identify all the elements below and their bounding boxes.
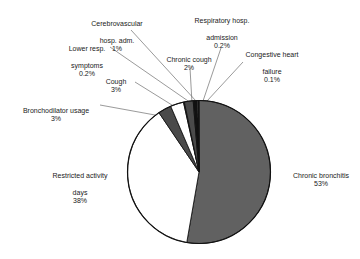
pie-slices	[127, 100, 270, 243]
label-bronchodilator-pct: 3%	[10, 115, 102, 124]
label-chronic-bronchitis: Chronic bronchitis 53%	[285, 163, 357, 197]
label-congestive-line2: failure	[262, 68, 281, 75]
label-congestive-pct: 0.1%	[224, 76, 320, 85]
label-chronic-cough: Chronic cough 2%	[143, 47, 235, 81]
label-chronic-bronchitis-pct: 53%	[285, 180, 357, 189]
label-congestive: Congestive heart failure 0.1%	[224, 42, 320, 94]
label-cough-line1: Cough	[106, 78, 127, 85]
label-restricted-line2: days	[73, 189, 88, 196]
label-lower-resp-line2: symptoms	[71, 62, 103, 69]
label-restricted: Restricted activity days 38%	[38, 163, 122, 215]
label-chronic-cough-pct: 2%	[143, 64, 235, 73]
label-respiratory-hosp-line1: Respiratory hosp.	[195, 17, 250, 24]
label-lower-resp-line1: Lower resp.	[69, 45, 106, 52]
label-restricted-pct: 38%	[38, 197, 122, 206]
label-chronic-bronchitis-line1: Chronic bronchitis	[293, 172, 349, 179]
label-congestive-line1: Congestive heart	[246, 51, 299, 58]
label-bronchodilator-line1: Bronchodilator usage	[23, 107, 89, 114]
label-respiratory-hosp-line2: admission	[206, 34, 238, 41]
label-restricted-line1: Restricted activity	[53, 172, 108, 179]
label-cough-pct: 3%	[92, 86, 140, 95]
pie-chart-figure: Cerebrovascular hosp. adm. 1% Respirator…	[0, 0, 360, 259]
label-bronchodilator: Bronchodilator usage 3%	[10, 98, 102, 132]
label-cerebrovascular-line1: Cerebrovascular	[91, 20, 142, 27]
label-chronic-cough-line1: Chronic cough	[166, 56, 211, 63]
